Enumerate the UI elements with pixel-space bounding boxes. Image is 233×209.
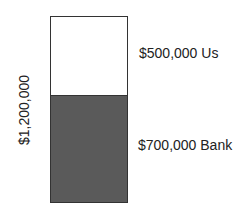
segment-us <box>51 17 127 95</box>
segment-bank-label: $700,000 Bank <box>138 137 232 153</box>
stacked-bar <box>50 16 128 203</box>
total-label: $1,200,000 <box>16 75 32 145</box>
segment-us-label: $500,000 Us <box>139 45 218 61</box>
segment-bank <box>51 95 127 202</box>
